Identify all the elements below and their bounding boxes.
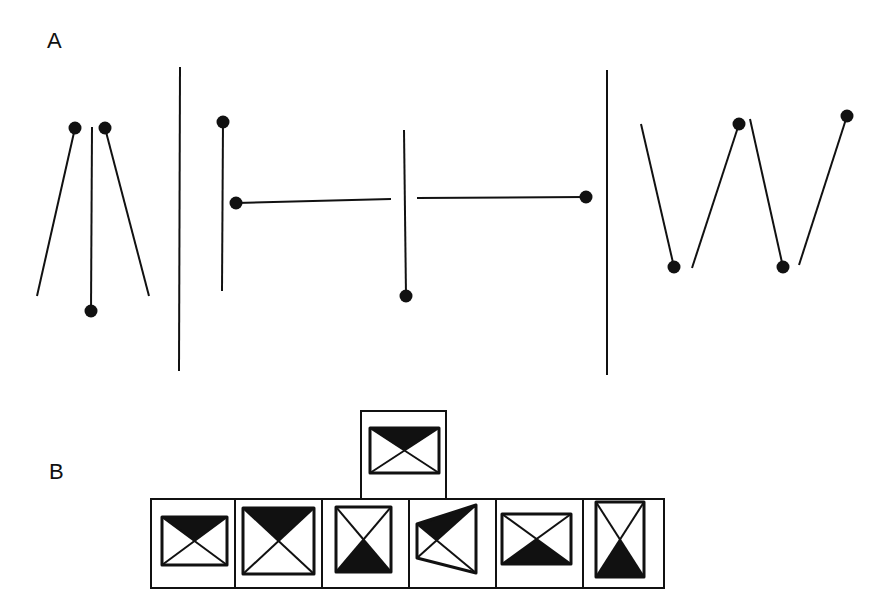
card-frame [151,499,235,588]
option-card-3[interactable] [322,499,409,588]
target-card[interactable] [361,411,446,499]
panel-b-matching-shapes [0,0,872,602]
option-card-6[interactable] [583,499,664,588]
option-card-1[interactable] [151,499,235,588]
option-card-4[interactable] [409,499,496,588]
option-card-2[interactable] [235,499,322,588]
card-frame [361,411,446,499]
option-card-5[interactable] [496,499,583,588]
